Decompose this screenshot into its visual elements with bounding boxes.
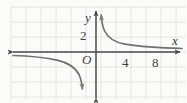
x-tick-label-4: 4 [122, 56, 129, 69]
curve-branch-upper-right [101, 15, 182, 49]
curve-branch-lower-left [13, 56, 82, 90]
x-tick-label-8: 8 [152, 56, 159, 69]
graph-figure: y x O 2 4 8 [0, 0, 187, 103]
origin-label: O [82, 53, 91, 66]
y-axis-label: y [85, 11, 91, 24]
y-tick-label-2: 2 [80, 29, 87, 42]
x-axis-label: x [172, 34, 178, 47]
plot-canvas [0, 0, 187, 103]
grid-lines [11, 7, 186, 100]
